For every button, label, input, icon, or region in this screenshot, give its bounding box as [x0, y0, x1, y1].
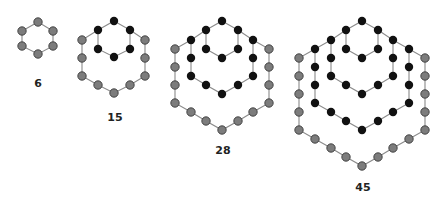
gray-dot: [295, 108, 303, 116]
gray-dot: [389, 144, 397, 152]
figure-0-ring-0-edges: [22, 22, 53, 54]
black-dot: [342, 45, 350, 53]
black-dot: [218, 54, 226, 62]
black-dot: [389, 108, 397, 116]
gray-dot: [327, 144, 335, 152]
gray-dot: [265, 99, 273, 107]
gray-dot: [234, 117, 242, 125]
gray-dot: [421, 90, 429, 98]
black-dot: [405, 45, 413, 53]
black-dot: [218, 90, 226, 98]
gray-dot: [358, 162, 366, 170]
gray-dot: [265, 81, 273, 89]
black-dot: [358, 126, 366, 134]
gray-dot: [49, 27, 57, 35]
black-dot: [202, 26, 210, 34]
gray-dot: [218, 126, 226, 134]
black-dot: [218, 17, 226, 25]
gray-dot: [94, 81, 102, 89]
gray-dot: [78, 72, 86, 80]
black-dot: [249, 54, 257, 62]
figure-2-ring-0-edges: [206, 21, 238, 58]
gray-dot: [249, 108, 257, 116]
gray-dot: [421, 72, 429, 80]
gray-dot: [295, 90, 303, 98]
figure-2-ring-2-edges: [175, 40, 269, 130]
black-dot: [389, 72, 397, 80]
gray-dot: [374, 153, 382, 161]
black-dot: [94, 45, 102, 53]
gray-dot: [110, 89, 118, 97]
black-dot: [234, 26, 242, 34]
black-dot: [342, 117, 350, 125]
black-dot: [126, 26, 134, 34]
black-dot: [358, 17, 366, 25]
figure-1-ring-1-edges: [82, 30, 145, 93]
black-dot: [126, 45, 134, 53]
gray-dot: [171, 45, 179, 53]
black-dot: [327, 54, 335, 62]
black-dot: [187, 54, 195, 62]
gray-dot: [34, 18, 42, 26]
gray-dot: [202, 117, 210, 125]
gray-dot: [141, 72, 149, 80]
gray-dot: [295, 54, 303, 62]
figure-label: 6: [34, 77, 42, 90]
gray-dot: [141, 54, 149, 62]
gray-dot: [421, 108, 429, 116]
black-dot: [202, 81, 210, 89]
black-dot: [389, 36, 397, 44]
gray-dot: [295, 72, 303, 80]
gray-dot: [171, 63, 179, 71]
black-dot: [358, 90, 366, 98]
gray-dot: [265, 63, 273, 71]
black-dot: [327, 36, 335, 44]
black-dot: [374, 45, 382, 53]
gray-dot: [342, 153, 350, 161]
gray-dot: [171, 99, 179, 107]
black-dot: [187, 36, 195, 44]
figure-1-ring-0-edges: [98, 21, 130, 57]
gray-dot: [18, 27, 26, 35]
black-dot: [311, 45, 319, 53]
black-dot: [405, 81, 413, 89]
gray-dot: [421, 126, 429, 134]
gray-dot: [126, 81, 134, 89]
black-dot: [94, 26, 102, 34]
black-dot: [187, 72, 195, 80]
black-dot: [110, 53, 118, 61]
gray-dot: [18, 42, 26, 50]
gray-dot: [49, 42, 57, 50]
black-dot: [374, 117, 382, 125]
black-dot: [327, 72, 335, 80]
black-dot: [342, 26, 350, 34]
black-dot: [234, 81, 242, 89]
gray-dot: [78, 36, 86, 44]
gray-dot: [78, 54, 86, 62]
black-dot: [311, 99, 319, 107]
gray-dot: [405, 135, 413, 143]
black-dot: [358, 54, 366, 62]
black-dot: [249, 72, 257, 80]
black-dot: [374, 26, 382, 34]
black-dot: [249, 36, 257, 44]
gray-dot: [421, 54, 429, 62]
gray-dot: [311, 135, 319, 143]
black-dot: [405, 63, 413, 71]
figure-labels: 6152845: [34, 77, 370, 194]
figure-3-ring-0-edges: [346, 21, 378, 58]
black-dot: [110, 17, 118, 25]
black-dot: [311, 63, 319, 71]
figure-3-ring-2-edges: [315, 40, 409, 130]
gray-dot: [295, 126, 303, 134]
black-dot: [342, 81, 350, 89]
black-dot: [405, 99, 413, 107]
black-dot: [374, 81, 382, 89]
figure-label: 15: [107, 111, 122, 124]
figure-label: 45: [355, 181, 370, 194]
black-dot: [327, 108, 335, 116]
gray-dot: [265, 45, 273, 53]
black-dot: [234, 45, 242, 53]
gray-dot: [34, 50, 42, 58]
gray-dot: [187, 108, 195, 116]
